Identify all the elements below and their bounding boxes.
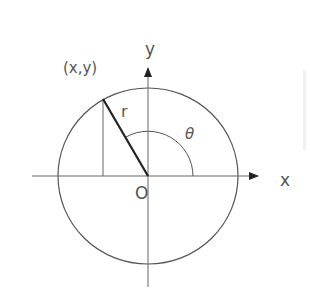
polar-coordinate-diagram: (x,y) r θ O x y <box>0 0 310 293</box>
point-label: (x,y) <box>63 59 97 77</box>
angle-label: θ <box>185 125 194 143</box>
origin-label: O <box>135 183 148 203</box>
radius-label: r <box>121 102 128 121</box>
x-axis-label: x <box>280 170 290 190</box>
y-axis-label: y <box>145 39 155 59</box>
scan-artifact <box>303 70 306 150</box>
